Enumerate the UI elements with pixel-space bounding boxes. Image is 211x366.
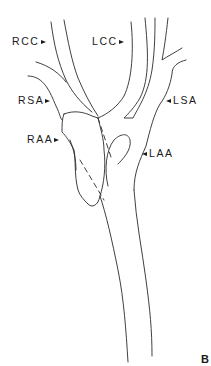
rsa-upper-wall	[36, 62, 66, 82]
label-lcc-text: LCC	[92, 35, 118, 47]
label-lsa-text: LSA	[173, 94, 198, 106]
descending-aorta-left-wall	[100, 196, 128, 362]
label-lsa: LSA	[166, 95, 198, 106]
label-rsa-text: RSA	[18, 94, 44, 106]
laa-loop	[106, 135, 130, 186]
vessel-drawing	[0, 0, 211, 366]
label-laa: LAA	[142, 148, 174, 159]
label-lcc: LCC	[92, 36, 124, 47]
lsa-outer-wall	[134, 60, 186, 190]
label-laa-text: LAA	[149, 147, 174, 159]
label-rsa: RSA	[18, 95, 50, 106]
pointer-arrow-icon	[119, 40, 124, 44]
pointer-arrow-icon	[41, 40, 46, 44]
dashed-connection	[80, 118, 112, 200]
lsa-inner-wall	[162, 18, 182, 60]
vascular-diagram: RCC LCC RSA LSA RAA LAA B	[0, 0, 211, 366]
panel-label: B	[201, 353, 209, 365]
left-vessel-wall-1	[124, 18, 155, 118]
label-raa-text: RAA	[27, 133, 53, 145]
label-rcc-text: RCC	[12, 35, 40, 47]
pointer-arrow-icon	[142, 152, 147, 156]
descending-aorta-right-wall	[134, 190, 152, 356]
pointer-arrow-icon	[45, 99, 50, 103]
rcc-outer-wall	[51, 22, 92, 112]
label-raa: RAA	[27, 134, 59, 145]
label-rcc: RCC	[12, 36, 46, 47]
pointer-arrow-icon	[54, 138, 59, 142]
raa-outline	[62, 112, 105, 206]
pointer-arrow-icon	[166, 99, 171, 103]
